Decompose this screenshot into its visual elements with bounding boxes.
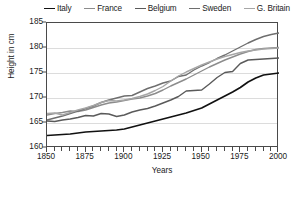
y-tick-label: 165 [29, 118, 43, 126]
x-tick-label: 1900 [114, 153, 132, 161]
x-minor-tick-mark [185, 147, 186, 151]
x-minor-tick-mark [154, 147, 155, 151]
series-line-sweden [47, 33, 279, 120]
legend-item-label: Italy [57, 5, 72, 13]
x-minor-tick-mark [147, 147, 148, 151]
x-minor-tick-mark [100, 147, 101, 151]
legend-item-g-britain[interactable]: G. Britain [244, 5, 290, 13]
y-axis-title: Height in cm [8, 24, 16, 88]
legend-item-label: France [97, 5, 122, 13]
legend-item-label: Belgium [148, 5, 177, 13]
x-tick-label: 1950 [192, 153, 210, 161]
x-tick-label: 1925 [153, 153, 171, 161]
x-minor-tick-mark [170, 147, 171, 151]
y-tick-label: 160 [29, 143, 43, 151]
legend-line-icon [189, 8, 200, 9]
legend-item-label: G. Britain [257, 5, 290, 13]
legend-item-belgium[interactable]: Belgium [135, 5, 177, 13]
legend-item-italy[interactable]: Italy [44, 5, 72, 13]
x-minor-tick-mark [193, 147, 194, 151]
x-minor-tick-mark [247, 147, 248, 151]
series-layer [47, 23, 279, 148]
x-minor-tick-mark [208, 147, 209, 151]
x-minor-tick-mark [131, 147, 132, 151]
x-minor-tick-mark [108, 147, 109, 151]
line-chart: ItalyFranceBelgiumSwedenG. Britain 18518… [0, 0, 294, 200]
y-tick-label: 170 [29, 93, 43, 101]
x-minor-tick-mark [69, 147, 70, 151]
x-tick-label: 1850 [37, 153, 55, 161]
series-line-g-britain [47, 48, 279, 115]
x-minor-tick-mark [92, 147, 93, 151]
legend-item-sweden[interactable]: Sweden [189, 5, 231, 13]
legend-item-label: Sweden [202, 5, 231, 13]
x-minor-tick-mark [255, 147, 256, 151]
legend-line-icon [244, 8, 255, 9]
x-minor-tick-mark [139, 147, 140, 151]
x-minor-tick-mark [61, 147, 62, 151]
x-tick-label: 2000 [269, 153, 287, 161]
chart-legend: ItalyFranceBelgiumSwedenG. Britain [44, 2, 290, 16]
x-minor-tick-mark [54, 147, 55, 151]
series-line-france [47, 48, 279, 116]
y-tick-label: 185 [29, 18, 43, 26]
legend-line-icon [44, 8, 55, 9]
x-minor-tick-mark [232, 147, 233, 151]
x-minor-tick-mark [263, 147, 264, 151]
x-minor-tick-mark [216, 147, 217, 151]
x-minor-tick-mark [270, 147, 271, 151]
plot-area [46, 22, 278, 147]
x-minor-tick-mark [224, 147, 225, 151]
x-tick-label: 1975 [230, 153, 248, 161]
x-minor-tick-mark [177, 147, 178, 151]
x-tick-label: 1875 [76, 153, 94, 161]
legend-line-icon [135, 8, 146, 9]
legend-line-icon [84, 8, 95, 9]
y-tick-label: 175 [29, 68, 43, 76]
x-axis-title: Years [46, 167, 278, 175]
x-minor-tick-mark [116, 147, 117, 151]
y-tick-label: 180 [29, 43, 43, 51]
x-minor-tick-mark [77, 147, 78, 151]
legend-item-france[interactable]: France [84, 5, 122, 13]
y-axis: 185180175170165160 [18, 22, 46, 147]
